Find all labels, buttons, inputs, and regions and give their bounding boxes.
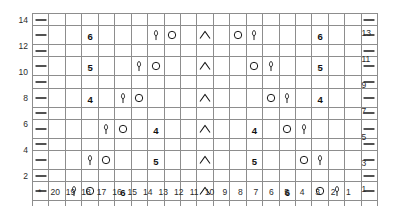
grid-cell-r14-c11[interactable] (197, 14, 213, 26)
grid-cell-r11-c3[interactable] (328, 57, 344, 76)
grid-cell-r12-c12[interactable] (180, 45, 196, 57)
grid-cell-r9-c*[interactable] (33, 88, 49, 107)
grid-cell-r4-c13[interactable] (164, 169, 180, 181)
grid-cell-r14-c15[interactable] (131, 14, 147, 26)
grid-cell-r14-c6[interactable] (279, 14, 295, 26)
grid-cell-r14-c4[interactable] (312, 14, 328, 26)
grid-cell-r13-c17[interactable] (98, 26, 114, 45)
grid-cell-r5-c11[interactable] (197, 150, 213, 169)
grid-cell-r14-c9[interactable] (230, 14, 246, 26)
grid-cell-r9-c17[interactable] (98, 88, 114, 107)
grid-cell-r14-c18[interactable] (82, 14, 98, 26)
grid-cell-r14-c*[interactable] (33, 14, 49, 26)
grid-cell-r6-c8[interactable] (246, 138, 262, 150)
grid-cell-r5-c19[interactable] (65, 150, 81, 169)
grid-cell-r11-c16[interactable] (115, 57, 131, 76)
grid-cell-r10-c15[interactable] (131, 76, 147, 88)
grid-cell-r11-c15[interactable] (131, 57, 147, 76)
grid-cell-r7-c17[interactable] (98, 119, 114, 138)
grid-cell-r13-c8[interactable] (246, 26, 262, 45)
grid-cell-r4-c15[interactable] (131, 169, 147, 181)
grid-cell-r13-c19[interactable] (65, 26, 81, 45)
grid-cell-r12-c18[interactable] (82, 45, 98, 57)
grid-cell-r12-c6[interactable] (279, 45, 295, 57)
grid-cell-r8-c2[interactable] (345, 107, 361, 119)
grid-cell-r10-c20[interactable] (49, 76, 65, 88)
grid-cell-r2-c*[interactable] (33, 201, 49, 206)
grid-cell-r11-c7[interactable] (263, 57, 279, 76)
grid-cell-r7-c18[interactable] (82, 119, 98, 138)
grid-cell-r8-c14[interactable] (148, 107, 164, 119)
grid-cell-r13-c18[interactable]: 6 (82, 26, 98, 45)
grid-cell-r13-c7[interactable] (263, 26, 279, 45)
grid-cell-r9-c18[interactable]: 4 (82, 88, 98, 107)
grid-cell-r14-c8[interactable] (246, 14, 262, 26)
grid-cell-r5-c18[interactable] (82, 150, 98, 169)
grid-cell-r8-c15[interactable] (131, 107, 147, 119)
grid-cell-r10-c17[interactable] (98, 76, 114, 88)
grid-cell-r9-c13[interactable] (164, 88, 180, 107)
grid-cell-r13-c16[interactable] (115, 26, 131, 45)
grid-cell-r6-c4[interactable] (312, 138, 328, 150)
grid-cell-r2-c12[interactable] (180, 201, 196, 206)
grid-cell-r4-c12[interactable] (180, 169, 196, 181)
grid-cell-r4-c19[interactable] (65, 169, 81, 181)
grid-cell-r9-c20[interactable] (49, 88, 65, 107)
grid-cell-r5-c14[interactable]: 5 (148, 150, 164, 169)
grid-cell-r10-c6[interactable] (279, 76, 295, 88)
grid-cell-r12-c7[interactable] (263, 45, 279, 57)
grid-cell-r5-c*[interactable] (33, 150, 49, 169)
grid-cell-r6-c19[interactable] (65, 138, 81, 150)
grid-cell-r2-c19[interactable] (65, 201, 81, 206)
grid-cell-r11-c13[interactable] (164, 57, 180, 76)
grid-cell-r8-c11[interactable] (197, 107, 213, 119)
grid-cell-r13-c*[interactable] (33, 26, 49, 45)
grid-cell-r9-c4[interactable]: 4 (312, 88, 328, 107)
grid-cell-r11-c4[interactable]: 5 (312, 57, 328, 76)
grid-cell-r10-c16[interactable] (115, 76, 131, 88)
grid-cell-r9-c1[interactable] (361, 88, 377, 107)
grid-cell-r5-c6[interactable] (279, 150, 295, 169)
grid-cell-r12-c13[interactable] (164, 45, 180, 57)
grid-cell-r12-c4[interactable] (312, 45, 328, 57)
grid-cell-r8-c20[interactable] (49, 107, 65, 119)
grid-cell-r2-c4[interactable] (312, 201, 328, 206)
grid-cell-r6-c5[interactable] (296, 138, 312, 150)
grid-cell-r9-c15[interactable] (131, 88, 147, 107)
grid-cell-r13-c4[interactable]: 6 (312, 26, 328, 45)
grid-cell-r11-c5[interactable] (296, 57, 312, 76)
grid-cell-r13-c9[interactable] (230, 26, 246, 45)
grid-cell-r5-c9[interactable] (230, 150, 246, 169)
grid-cell-r5-c12[interactable] (180, 150, 196, 169)
grid-cell-r9-c10[interactable] (213, 88, 229, 107)
grid-cell-r8-c19[interactable] (65, 107, 81, 119)
grid-cell-r6-c12[interactable] (180, 138, 196, 150)
grid-cell-r6-c16[interactable] (115, 138, 131, 150)
grid-cell-r6-c15[interactable] (131, 138, 147, 150)
grid-cell-r4-c9[interactable] (230, 169, 246, 181)
grid-cell-r2-c15[interactable] (131, 201, 147, 206)
grid-cell-r4-c10[interactable] (213, 169, 229, 181)
grid-cell-r2-c3[interactable] (328, 201, 344, 206)
grid-cell-r6-c9[interactable] (230, 138, 246, 150)
grid-cell-r7-c2[interactable] (345, 119, 361, 138)
grid-cell-r4-c2[interactable] (345, 169, 361, 181)
grid-cell-r10-c14[interactable] (148, 76, 164, 88)
grid-cell-r10-c*[interactable] (33, 76, 49, 88)
grid-cell-r7-c15[interactable] (131, 119, 147, 138)
grid-cell-r8-c4[interactable] (312, 107, 328, 119)
grid-cell-r4-c18[interactable] (82, 169, 98, 181)
grid-cell-r5-c16[interactable] (115, 150, 131, 169)
grid-cell-r11-c*[interactable] (33, 57, 49, 76)
grid-cell-r13-c5[interactable] (296, 26, 312, 45)
grid-cell-r12-c17[interactable] (98, 45, 114, 57)
grid-cell-r14-c16[interactable] (115, 14, 131, 26)
grid-cell-r9-c5[interactable] (296, 88, 312, 107)
grid-cell-r5-c5[interactable] (296, 150, 312, 169)
grid-cell-r10-c11[interactable] (197, 76, 213, 88)
grid-cell-r5-c2[interactable] (345, 150, 361, 169)
grid-cell-r8-c10[interactable] (213, 107, 229, 119)
grid-cell-r7-c5[interactable] (296, 119, 312, 138)
grid-cell-r12-c11[interactable] (197, 45, 213, 57)
grid-cell-r6-c13[interactable] (164, 138, 180, 150)
